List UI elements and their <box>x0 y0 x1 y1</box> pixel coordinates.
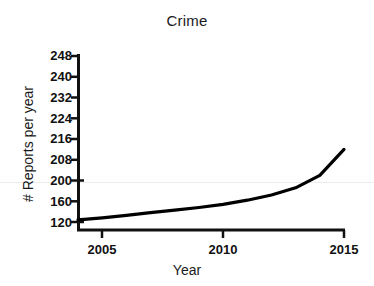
x-axis-title: Year <box>0 262 374 278</box>
x-tick-label-2005: 2005 <box>88 243 117 256</box>
chart-container: Crime 248 240 232 224 <box>0 0 374 286</box>
y-axis-title: # Reports per year <box>20 54 36 234</box>
x-tick-label-2010: 2010 <box>209 243 238 256</box>
x-axis-tick-labels: 2005 2010 2015 <box>0 0 374 286</box>
x-tick-label-2015: 2015 <box>330 243 359 256</box>
